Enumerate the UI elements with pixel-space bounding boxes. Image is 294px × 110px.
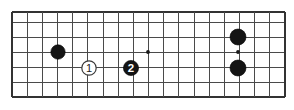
goban-svg: 12: [0, 0, 294, 110]
black-stone-lower-right[interactable]: [230, 60, 246, 76]
black-stone-move-2-label: 2: [128, 62, 134, 74]
star-point-center-right: [236, 50, 240, 54]
go-board-diagram: 12: [0, 0, 294, 110]
star-point-center-left: [146, 50, 150, 54]
white-stone-move-1-label: 1: [86, 62, 92, 74]
black-stone-left[interactable]: [51, 45, 65, 59]
black-stone-upper-right[interactable]: [230, 29, 246, 45]
